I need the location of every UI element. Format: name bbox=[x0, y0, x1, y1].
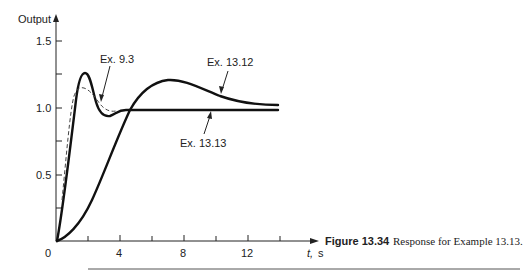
y-axis-label: Output bbox=[18, 13, 51, 25]
curve-ex-13-13 bbox=[57, 73, 278, 241]
y-axis-arrow-icon bbox=[53, 14, 59, 22]
arrowhead-icon bbox=[99, 94, 104, 102]
response-chart: Output 1.5 1.0 0.5 0 4 8 12 t, s Ex. 9.3… bbox=[0, 0, 530, 276]
origin-label: 0 bbox=[45, 247, 51, 259]
x-tick-label-4: 4 bbox=[116, 247, 122, 259]
arrowhead-icon bbox=[207, 111, 212, 119]
y-tick-label-1-0: 1.0 bbox=[36, 102, 51, 114]
annotation-ex-13-13-pointer bbox=[204, 116, 210, 134]
x-tick-label-8: 8 bbox=[180, 247, 186, 259]
annotation-ex-13-12: Ex. 13.12 bbox=[207, 56, 253, 68]
x-tick-label-12: 12 bbox=[241, 247, 253, 259]
y-tick-label-1-5: 1.5 bbox=[36, 35, 51, 47]
y-ticks bbox=[56, 41, 62, 208]
annotation-ex-9-3: Ex. 9.3 bbox=[100, 53, 134, 65]
x-axis-label-var: t, bbox=[307, 247, 313, 259]
figure-caption: Response for Example 13.13. bbox=[393, 235, 523, 247]
x-axis-label-unit: s bbox=[318, 247, 324, 259]
curve-ex-13-12 bbox=[57, 80, 278, 241]
annotation-ex-9-3-pointer bbox=[102, 66, 110, 97]
axes bbox=[53, 14, 319, 244]
annotation-ex-13-13: Ex. 13.13 bbox=[180, 137, 226, 149]
x-ticks bbox=[88, 235, 280, 241]
x-axis-arrow-icon bbox=[310, 238, 319, 244]
y-tick-label-0-5: 0.5 bbox=[36, 169, 51, 181]
figure-label: Figure 13.34 bbox=[325, 235, 390, 247]
arrowhead-icon bbox=[219, 86, 224, 94]
